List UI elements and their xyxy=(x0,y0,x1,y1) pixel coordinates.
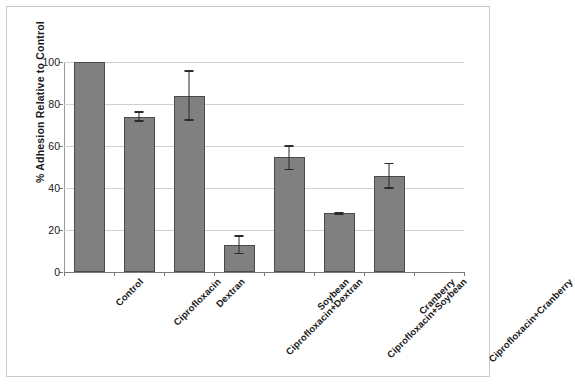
x-axis-label: Control xyxy=(113,276,145,308)
y-tick-label: 0 xyxy=(26,266,60,278)
error-bar-cap-top xyxy=(385,163,394,165)
error-bar xyxy=(235,235,244,254)
error-bar-stem xyxy=(189,70,190,120)
error-bar-cap-bottom xyxy=(235,253,244,255)
bar-group[interactable] xyxy=(324,62,355,272)
y-axis-line xyxy=(64,62,65,273)
error-bar-stem xyxy=(289,145,290,170)
bar-group[interactable] xyxy=(124,62,155,272)
error-bar-cap-top xyxy=(285,145,294,147)
x-axis-label: Ciprofloxacin+Soybean xyxy=(385,276,469,360)
bar-group[interactable] xyxy=(274,62,305,272)
error-bar-cap-bottom xyxy=(335,213,344,215)
bar-group[interactable] xyxy=(424,62,455,272)
error-bar-cap-top xyxy=(235,235,244,237)
bar-group[interactable] xyxy=(174,62,205,272)
error-bar-cap-top xyxy=(135,111,144,113)
error-bar xyxy=(135,111,144,122)
bar[interactable] xyxy=(74,62,105,272)
error-bar xyxy=(335,212,344,215)
error-bar-cap-top xyxy=(185,70,194,72)
error-bar-cap-bottom xyxy=(185,119,194,121)
bar[interactable] xyxy=(324,213,355,272)
error-bar-cap-bottom xyxy=(285,169,294,171)
error-bar-stem xyxy=(239,235,240,254)
error-bar xyxy=(185,70,194,120)
bar-group[interactable] xyxy=(224,62,255,272)
y-tick-label: 60 xyxy=(26,140,60,152)
y-tick-label: 40 xyxy=(26,182,60,194)
error-bar-cap-bottom xyxy=(135,120,144,122)
bar[interactable] xyxy=(274,157,305,273)
bar[interactable] xyxy=(174,96,205,272)
x-axis-labels: ControlCiprofloxacinDextranCiprofloxacin… xyxy=(64,276,464,380)
error-bar xyxy=(285,145,294,170)
error-bar-stem xyxy=(389,163,390,189)
y-tick-label: 80 xyxy=(26,98,60,110)
y-tick-label: 20 xyxy=(26,224,60,236)
x-tick-mark xyxy=(464,272,465,276)
x-axis-label: Ciprofloxacin+Cranberry xyxy=(486,276,574,364)
y-axis-ticks: 020406080100 xyxy=(20,62,60,272)
bar[interactable] xyxy=(374,176,405,272)
y-tick-label: 100 xyxy=(26,56,60,68)
bar-group[interactable] xyxy=(74,62,105,272)
error-bar-cap-bottom xyxy=(385,187,394,189)
bar-group[interactable] xyxy=(374,62,405,272)
bar[interactable] xyxy=(124,117,155,272)
x-axis-label: Ciprofloxacin+Dextran xyxy=(283,276,364,357)
error-bar xyxy=(385,163,394,189)
plot-area xyxy=(64,62,464,272)
